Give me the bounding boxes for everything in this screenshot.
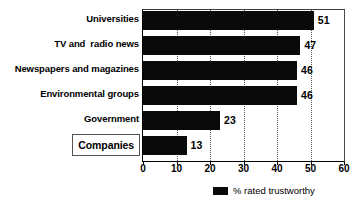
legend-label-rated-trustworthy: % rated trustworthy (233, 185, 315, 196)
bar-tv-and-radio-news (143, 36, 300, 55)
bar-universities (143, 11, 314, 30)
bar-value-newspapers-and-magazines: 46 (301, 61, 313, 80)
category-label-universities: Universities (86, 9, 139, 28)
category-label-environmental-groups: Environmental groups (40, 84, 139, 103)
bar-value-environmental-groups: 46 (301, 86, 313, 105)
plot-area: 51 47 46 46 23 13 (142, 9, 345, 162)
bar-chart: Universities TV and radio news Newspaper… (0, 0, 356, 204)
x-axis: 0102030405060 (142, 162, 346, 178)
bar-value-tv-and-radio-news: 47 (304, 36, 316, 55)
bar-value-government: 23 (224, 111, 236, 130)
legend: % rated trustworthy (213, 185, 315, 196)
category-label-companies: Companies (72, 134, 140, 156)
x-tick-label-0: 0 (140, 163, 146, 174)
gridline-60 (344, 10, 345, 161)
x-tick-label-20: 20 (204, 163, 215, 174)
bar-value-universities: 51 (318, 11, 330, 30)
x-tick-label-60: 60 (338, 163, 349, 174)
bar-environmental-groups (143, 86, 297, 105)
bar-value-companies: 13 (191, 136, 203, 155)
bar-newspapers-and-magazines (143, 61, 297, 80)
bar-government (143, 111, 220, 130)
category-label-tv-and-radio-news: TV and radio news (54, 34, 139, 53)
legend-swatch-icon (213, 187, 228, 195)
x-tick-label-30: 30 (238, 163, 249, 174)
bar-companies (143, 136, 187, 155)
x-tick-label-10: 10 (171, 163, 182, 174)
x-tick-label-40: 40 (271, 163, 282, 174)
category-label-newspapers-and-magazines: Newspapers and magazines (15, 59, 139, 78)
category-axis-labels: Universities TV and radio news Newspaper… (0, 9, 142, 162)
category-label-government: Government (84, 109, 139, 128)
x-tick-label-50: 50 (305, 163, 316, 174)
